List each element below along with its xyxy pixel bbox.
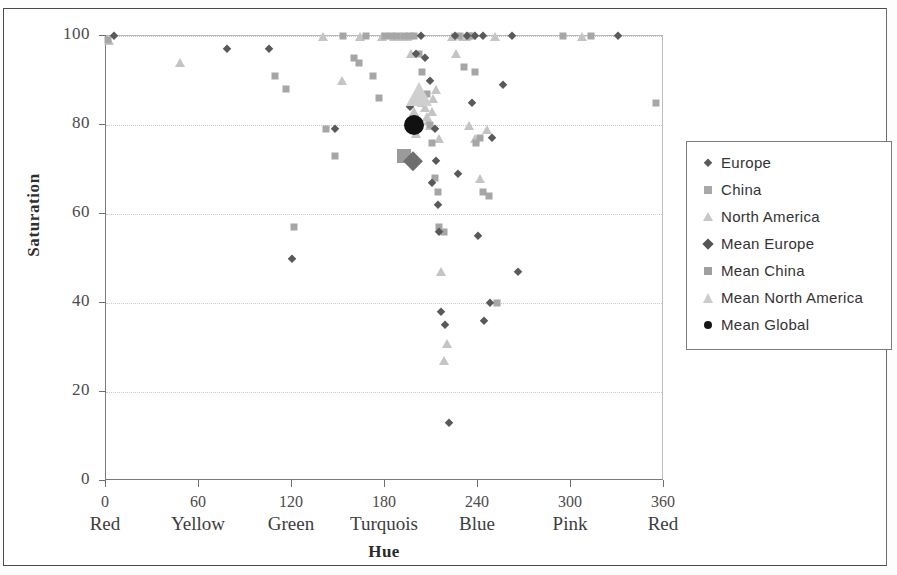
diamond-marker-icon xyxy=(699,154,717,172)
data-point xyxy=(222,45,231,54)
y-axis-tick-label: 80 xyxy=(46,113,90,133)
data-point xyxy=(363,33,370,40)
data-point xyxy=(433,201,442,210)
data-point xyxy=(369,73,376,80)
square-marker-icon xyxy=(699,181,717,199)
chart-legend: EuropeChinaNorth AmericaMean EuropeMean … xyxy=(686,141,892,350)
legend-item[interactable]: Europe xyxy=(687,149,891,176)
data-point xyxy=(577,32,587,41)
gridline xyxy=(106,214,662,215)
data-point xyxy=(355,59,362,66)
data-point xyxy=(467,98,476,107)
data-point xyxy=(271,73,278,80)
x-axis-tick-value: 360 xyxy=(608,492,718,512)
data-point xyxy=(421,54,430,63)
data-point xyxy=(485,193,492,200)
data-point xyxy=(331,125,340,134)
y-axis-tick-mark xyxy=(99,35,106,36)
legend-item-label: China xyxy=(721,181,762,198)
legend-item[interactable]: China xyxy=(687,176,891,203)
data-point xyxy=(332,153,339,160)
circle-marker-icon xyxy=(699,316,717,334)
legend-item[interactable]: North America xyxy=(687,203,891,230)
data-point xyxy=(431,85,441,94)
y-axis-title: Saturation xyxy=(24,173,44,256)
plot-area xyxy=(105,35,663,480)
data-point xyxy=(471,68,478,75)
data-point xyxy=(444,419,453,428)
y-axis-tick-label: 40 xyxy=(46,291,90,311)
chart-screenshot: Saturation Hue EuropeChinaNorth AmericaM… xyxy=(0,0,897,575)
legend-item[interactable]: Mean China xyxy=(687,257,891,284)
data-point xyxy=(264,45,273,54)
data-point xyxy=(490,32,500,41)
data-point xyxy=(653,99,660,106)
data-point xyxy=(436,267,446,276)
data-point xyxy=(464,121,474,130)
data-point xyxy=(487,134,496,143)
y-axis-tick-label: 0 xyxy=(46,469,90,489)
data-point xyxy=(428,139,435,146)
legend-item-label: North America xyxy=(721,208,820,225)
data-point xyxy=(442,339,452,348)
x-axis-tick-mark xyxy=(570,480,571,487)
data-point xyxy=(441,321,450,330)
y-axis-tick-label: 100 xyxy=(46,24,90,44)
x-axis-tick-mark xyxy=(291,480,292,487)
data-point xyxy=(476,135,483,142)
legend-item[interactable]: Mean North America xyxy=(687,284,891,311)
data-point xyxy=(404,115,424,135)
data-point xyxy=(451,49,461,58)
square-marker-icon xyxy=(699,262,717,280)
x-axis-tick-mark xyxy=(384,480,385,487)
x-axis-tick-mark xyxy=(663,480,664,487)
triangle-marker-icon xyxy=(699,208,717,226)
data-point xyxy=(287,254,296,263)
data-point xyxy=(560,33,567,40)
legend-item-label: Mean China xyxy=(721,262,805,279)
data-point xyxy=(480,316,489,325)
data-point xyxy=(482,125,492,134)
triangle-marker-icon xyxy=(699,289,717,307)
legend-item-label: Mean North America xyxy=(721,289,863,306)
data-point xyxy=(430,125,439,134)
y-axis-tick-mark xyxy=(99,213,106,214)
data-point xyxy=(588,33,595,40)
data-point xyxy=(375,95,382,102)
legend-item[interactable]: Mean Global xyxy=(687,311,891,338)
data-point xyxy=(475,174,485,183)
y-axis-tick-mark xyxy=(99,124,106,125)
y-axis-tick-label: 20 xyxy=(46,380,90,400)
data-point xyxy=(427,107,437,116)
data-point xyxy=(436,307,445,316)
gridline xyxy=(106,392,662,393)
data-point xyxy=(498,80,507,89)
data-point xyxy=(337,76,347,85)
data-point xyxy=(406,82,432,106)
x-axis-tick-mark xyxy=(477,480,478,487)
data-point xyxy=(432,156,441,165)
diamond-marker-icon xyxy=(699,235,717,253)
data-point xyxy=(473,232,482,241)
legend-item-label: Mean Europe xyxy=(721,235,814,252)
data-point xyxy=(323,126,330,133)
data-point xyxy=(434,188,441,195)
data-point xyxy=(514,267,523,276)
data-point xyxy=(453,169,462,178)
y-axis-tick-label: 60 xyxy=(46,202,90,222)
y-axis-tick-mark xyxy=(99,391,106,392)
legend-item[interactable]: Mean Europe xyxy=(687,230,891,257)
legend-item-label: Europe xyxy=(721,154,771,171)
data-point xyxy=(282,86,289,93)
x-axis-tick-group: 360Red xyxy=(608,492,718,536)
x-axis-tick-color-name: Red xyxy=(608,512,718,536)
x-axis-tick-mark xyxy=(198,480,199,487)
x-axis-tick-mark xyxy=(105,480,106,487)
legend-item-label: Mean Global xyxy=(721,316,809,333)
x-axis-title: Hue xyxy=(105,542,663,562)
data-point xyxy=(461,64,468,71)
y-axis-tick-mark xyxy=(99,302,106,303)
data-point xyxy=(439,356,449,365)
data-point xyxy=(175,58,185,67)
data-point xyxy=(434,134,444,143)
